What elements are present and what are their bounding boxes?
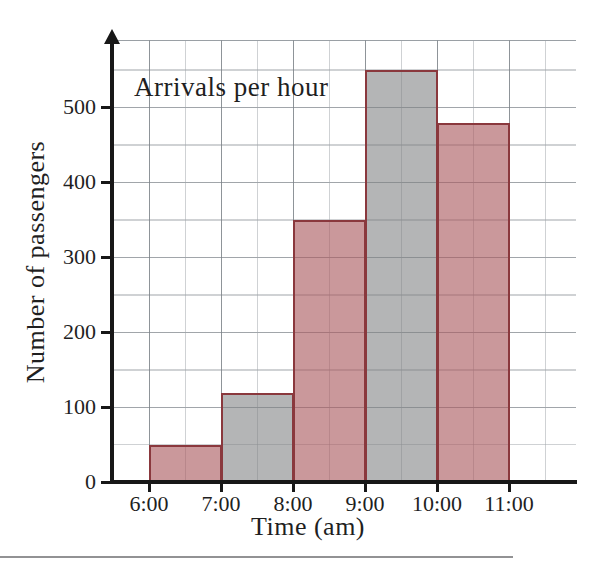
chart-title: Arrivals per hour: [134, 72, 328, 103]
bar-9:00-10:00: [365, 70, 438, 483]
x-axis-line: [110, 480, 577, 484]
y-tick-label-300: 300: [34, 246, 96, 268]
bar-6:00-7:00: [149, 445, 222, 483]
x-tick-label-6:00: 6:00: [113, 493, 185, 515]
y-tick-label-100: 100: [34, 396, 96, 418]
bar-10:00-11:00: [437, 123, 510, 483]
y-tick-0: [101, 481, 113, 484]
bar-8:00-9:00: [293, 220, 366, 483]
page-divider-line: [0, 556, 513, 558]
x-tick-label-10:00: 10:00: [401, 493, 473, 515]
bar-7:00-8:00: [221, 393, 294, 483]
y-axis-arrow-icon: [104, 29, 120, 44]
x-tick-label-11:00: 11:00: [473, 493, 545, 515]
y-tick-400: [101, 181, 113, 184]
y-tick-label-0: 0: [34, 471, 96, 493]
histogram-figure: Arrivals per hour Number of passengers T…: [0, 0, 589, 571]
x-tick-label-9:00: 9:00: [329, 493, 401, 515]
y-tick-label-500: 500: [34, 96, 96, 118]
y-tick-200: [101, 331, 113, 334]
x-tick-label-7:00: 7:00: [185, 493, 257, 515]
y-tick-300: [101, 256, 113, 259]
y-tick-500: [101, 106, 113, 109]
y-tick-label-200: 200: [34, 321, 96, 343]
y-tick-label-400: 400: [34, 171, 96, 193]
y-tick-100: [101, 406, 113, 409]
plot-area: [113, 40, 576, 483]
x-axis-title: Time (am): [251, 512, 365, 542]
x-tick-label-8:00: 8:00: [257, 493, 329, 515]
